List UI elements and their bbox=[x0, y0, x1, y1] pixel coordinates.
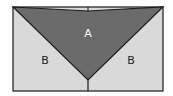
label-b-left: B bbox=[41, 54, 49, 67]
label-a: A bbox=[84, 27, 92, 40]
diagram: A B B bbox=[0, 0, 173, 96]
label-b-right: B bbox=[127, 54, 135, 67]
